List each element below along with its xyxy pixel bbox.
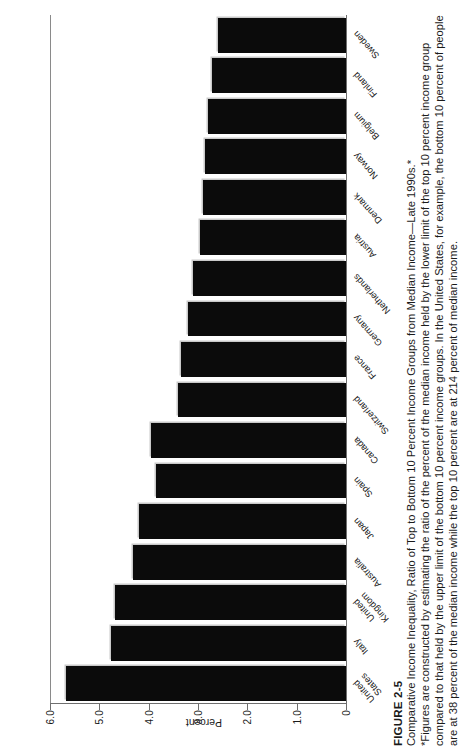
bar-column <box>50 15 346 56</box>
bar-column <box>50 663 346 704</box>
bar <box>133 545 346 580</box>
bar <box>156 464 346 499</box>
bar <box>188 302 346 337</box>
bar <box>200 220 346 255</box>
bar-column <box>50 339 346 380</box>
figure-caption: FIGURE 2-5 Comparative Income Inequality… <box>392 4 461 746</box>
bar <box>218 18 346 53</box>
bar <box>115 585 346 620</box>
bar-column <box>50 56 346 97</box>
bar-column <box>50 420 346 461</box>
bar-column <box>50 137 346 178</box>
bar <box>203 180 346 215</box>
figure-page: 01.02.03.04.05.06.0 Percent UnitedStates… <box>0 0 468 754</box>
y-axis-tick-mark <box>99 704 100 710</box>
figure-footnote: *Figures are constructed by estimating t… <box>419 4 461 746</box>
bar <box>66 666 346 701</box>
rotated-figure-canvas: 01.02.03.04.05.06.0 Percent UnitedStates… <box>0 0 468 754</box>
bar <box>193 261 346 296</box>
bar <box>151 423 346 458</box>
bar <box>212 58 346 93</box>
bar-column <box>50 542 346 583</box>
y-axis-tick-mark <box>198 704 199 710</box>
bar-column <box>50 96 346 137</box>
bar <box>111 626 346 661</box>
bar-column <box>50 501 346 542</box>
figure-number: FIGURE 2-5 <box>392 4 404 746</box>
bar-column <box>50 623 346 664</box>
y-axis-label: Percent <box>74 717 334 729</box>
y-axis-tick-mark <box>149 704 150 710</box>
y-axis-tick-label: 0 <box>341 710 352 754</box>
y-axis-tick-mark <box>50 704 51 710</box>
bar <box>178 383 346 418</box>
bar-column <box>50 177 346 218</box>
bar-column <box>50 299 346 340</box>
bar-column <box>50 380 346 421</box>
bar-chart: 01.02.03.04.05.06.0 Percent UnitedStates… <box>0 0 380 754</box>
y-axis-tick-label: 6.0 <box>45 710 56 754</box>
bar-column <box>50 218 346 259</box>
bar-column <box>50 461 346 502</box>
bar-column <box>50 258 346 299</box>
bar-series <box>50 15 346 704</box>
figure-title: Comparative Income Inequality, Ratio of … <box>405 4 419 746</box>
bar <box>205 139 346 174</box>
bar <box>208 99 346 134</box>
bar-column <box>50 582 346 623</box>
y-axis-tick-mark <box>297 704 298 710</box>
y-axis-tick-mark <box>346 704 347 710</box>
bar <box>181 342 346 377</box>
bar <box>139 504 346 539</box>
y-axis-tick-mark <box>247 704 248 710</box>
